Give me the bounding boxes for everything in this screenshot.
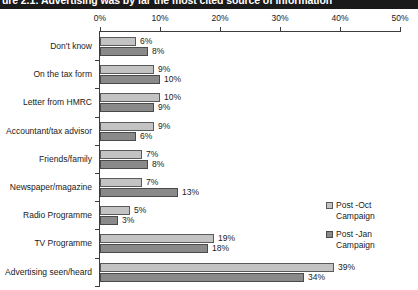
bar-1 xyxy=(100,47,148,56)
category-label: On the tax form xyxy=(0,69,92,79)
x-tick-label: 50% xyxy=(391,13,408,23)
bar-1 xyxy=(100,216,118,225)
chart-container: ure 2.1: Advertising was by far the most… xyxy=(0,0,418,290)
chart-category-row: Don't know6%8% xyxy=(0,33,418,61)
x-tick-mark xyxy=(160,27,161,32)
category-label: Radio Programme xyxy=(0,210,92,220)
bar-value-label: 7% xyxy=(146,150,158,159)
legend-swatch-icon xyxy=(326,231,333,238)
bar-1 xyxy=(100,103,154,112)
bar-0 xyxy=(100,150,142,159)
x-tick-label: 10% xyxy=(151,13,168,23)
x-axis-line xyxy=(99,31,400,32)
y-tick-mark xyxy=(95,286,100,287)
legend-item[interactable]: Post -Jan Campaign xyxy=(326,229,416,251)
bar-value-label: 6% xyxy=(140,132,152,141)
bar-1 xyxy=(100,132,136,141)
chart-category-row: Accountant/tax advisor9%6% xyxy=(0,118,418,146)
legend-item[interactable]: Post -Oct Campaign xyxy=(326,200,416,222)
legend-swatch-icon xyxy=(326,202,333,209)
x-tick-mark xyxy=(280,27,281,32)
bar-value-label: 9% xyxy=(158,65,170,74)
bar-value-label: 8% xyxy=(152,47,164,56)
category-label: TV Programme xyxy=(0,238,92,248)
bar-value-label: 6% xyxy=(140,37,152,46)
bar-0 xyxy=(100,263,334,272)
bar-0 xyxy=(100,37,136,46)
bar-value-label: 9% xyxy=(158,103,170,112)
bar-value-label: 10% xyxy=(164,93,181,102)
bar-1 xyxy=(100,188,178,197)
chart-title: ure 2.1: Advertising was by far the most… xyxy=(2,0,416,7)
chart-legend: Post -Oct CampaignPost -Jan Campaign xyxy=(326,200,416,258)
chart-category-row: Advertising seen/heard39%34% xyxy=(0,259,418,287)
bar-value-label: 9% xyxy=(158,122,170,131)
bar-value-label: 39% xyxy=(338,263,355,272)
bar-value-label: 7% xyxy=(146,178,158,187)
legend-label: Post -Oct Campaign xyxy=(336,200,416,222)
bar-value-label: 19% xyxy=(218,234,235,243)
bar-value-label: 13% xyxy=(182,188,199,197)
bar-1 xyxy=(100,273,304,282)
bar-1 xyxy=(100,160,148,169)
bar-value-label: 5% xyxy=(134,206,146,215)
bar-value-label: 34% xyxy=(308,273,325,282)
bar-1 xyxy=(100,75,160,84)
category-label: Accountant/tax advisor xyxy=(0,126,92,136)
x-tick-label: 40% xyxy=(331,13,348,23)
bar-value-label: 8% xyxy=(152,160,164,169)
category-label: Don't know xyxy=(0,41,92,51)
chart-category-row: On the tax form9%10% xyxy=(0,61,418,89)
bar-value-label: 3% xyxy=(122,216,134,225)
category-label: Friends/family xyxy=(0,154,92,164)
category-label: Letter from HMRC xyxy=(0,97,92,107)
chart-category-row: Letter from HMRC10%9% xyxy=(0,89,418,117)
chart-category-row: Friends/family7%8% xyxy=(0,146,418,174)
bar-0 xyxy=(100,93,160,102)
x-tick-label: 30% xyxy=(271,13,288,23)
x-tick-mark xyxy=(100,27,101,32)
category-label: Newspaper/magazine xyxy=(0,182,92,192)
x-tick-label: 20% xyxy=(211,13,228,23)
bar-0 xyxy=(100,122,154,131)
bar-0 xyxy=(100,234,214,243)
category-label: Advertising seen/heard xyxy=(0,267,92,277)
legend-label: Post -Jan Campaign xyxy=(336,229,416,251)
bar-0 xyxy=(100,65,154,74)
bar-1 xyxy=(100,244,208,253)
chart-category-row: Newspaper/magazine7%13% xyxy=(0,174,418,202)
bar-value-label: 10% xyxy=(164,75,181,84)
bar-value-label: 18% xyxy=(212,244,229,253)
x-tick-mark xyxy=(340,27,341,32)
x-tick-mark xyxy=(220,27,221,32)
x-tick-mark xyxy=(400,27,401,32)
chart-title-band: ure 2.1: Advertising was by far the most… xyxy=(0,0,418,9)
bar-0 xyxy=(100,178,142,187)
plot-area: 0%10%20%30%40%50% Don't know6%8%On the t… xyxy=(0,9,418,290)
bar-0 xyxy=(100,206,130,215)
x-tick-label: 0% xyxy=(94,13,106,23)
x-axis-tick-labels: 0%10%20%30%40%50% xyxy=(0,13,418,26)
